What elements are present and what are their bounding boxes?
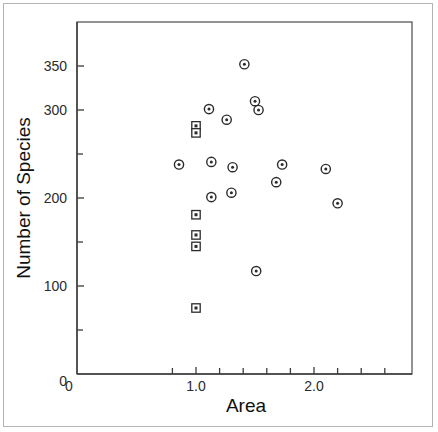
data-point-circle: [272, 178, 281, 187]
marker-center-dot: [195, 233, 198, 236]
plot-frame: [77, 22, 412, 374]
x-axis-title: Area: [226, 395, 267, 416]
data-point-circle: [250, 97, 259, 106]
data-point-circle: [240, 60, 249, 69]
data-point-square: [192, 231, 200, 239]
marker-center-dot: [195, 131, 198, 134]
marker-center-dot: [336, 202, 339, 205]
data-point-circle: [252, 266, 261, 275]
data-point-square: [192, 211, 200, 219]
marker-center-dot: [225, 118, 228, 121]
data-point-circle: [174, 160, 183, 169]
marker-center-dot: [257, 109, 260, 112]
data-point-circle: [278, 160, 287, 169]
data-point-circle: [222, 115, 231, 124]
marker-center-dot: [275, 181, 278, 184]
y-tick-label: 200: [44, 190, 68, 206]
data-point-circle: [254, 105, 263, 114]
data-point-square: [192, 129, 200, 137]
x-tick-label: 2.0: [304, 378, 324, 394]
marker-center-dot: [195, 124, 198, 127]
data-point-circle: [207, 157, 216, 166]
x-tick-label: 1.0: [186, 378, 206, 394]
marker-center-dot: [231, 166, 234, 169]
scatter-plot-figure: 35030020010001.02.00AreaNumber of Specie…: [0, 0, 438, 432]
marker-center-dot: [178, 163, 181, 166]
marker-center-dot: [324, 167, 327, 170]
marker-center-dot: [210, 160, 213, 163]
marker-center-dot: [207, 108, 210, 111]
marker-center-dot: [210, 196, 213, 199]
marker-center-dot: [195, 307, 198, 310]
plot-canvas: 35030020010001.02.00AreaNumber of Specie…: [0, 0, 438, 432]
marker-center-dot: [254, 100, 257, 103]
data-point-square: [192, 242, 200, 250]
y-tick-label: 350: [44, 58, 68, 74]
y-axis-title: Number of Species: [13, 117, 34, 279]
marker-center-dot: [255, 270, 258, 273]
data-point-circle: [333, 199, 342, 208]
y-tick-label: 300: [44, 102, 68, 118]
x-origin-label: 0: [65, 378, 73, 394]
data-point-circle: [321, 164, 330, 173]
marker-center-dot: [281, 163, 284, 166]
data-point-square: [192, 304, 200, 312]
marker-center-dot: [230, 191, 233, 194]
data-point-circle: [228, 163, 237, 172]
y-tick-label: 100: [44, 278, 68, 294]
data-point-circle: [204, 105, 213, 114]
data-point-circle: [207, 193, 216, 202]
data-point-circle: [227, 188, 236, 197]
marker-center-dot: [243, 63, 246, 66]
marker-center-dot: [195, 245, 198, 248]
marker-center-dot: [195, 213, 198, 216]
